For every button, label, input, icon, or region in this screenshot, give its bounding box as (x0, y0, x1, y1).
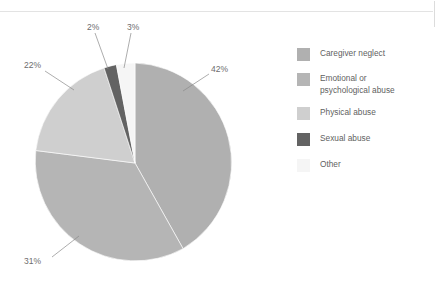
pie-label-31: 31% (24, 256, 41, 266)
legend-label-physical-abuse: Physical abuse (320, 107, 376, 119)
legend-item-other[interactable]: Other (297, 159, 435, 172)
legend-swatch-caregiver-neglect (297, 48, 310, 61)
top-divider (0, 11, 433, 12)
legend-item-emotional-psychological-abuse[interactable]: Emotional or psychological abuse (297, 73, 435, 96)
legend-swatch-sexual-abuse (297, 133, 310, 146)
legend-swatch-emotional-psychological-abuse (297, 73, 310, 86)
leader-line-3 (124, 33, 131, 68)
leader-line-22 (45, 71, 74, 90)
legend-swatch-physical-abuse (297, 107, 310, 120)
pie-label-22: 22% (24, 60, 41, 70)
legend-label-sexual-abuse: Sexual abuse (320, 133, 370, 145)
legend-label-other: Other (320, 159, 341, 171)
pie-label-42: 42% (211, 64, 228, 74)
chart-legend: Caregiver neglect Emotional or psycholog… (297, 48, 435, 182)
leader-line-31 (52, 236, 79, 257)
legend-item-caregiver-neglect[interactable]: Caregiver neglect (297, 48, 435, 61)
legend-label-emotional-psychological-abuse: Emotional or psychological abuse (320, 73, 395, 96)
page-root: 42% 31% 22% 2% 3% Caregiver neglect Emot… (0, 0, 438, 291)
pie-label-3: 3% (127, 22, 140, 32)
legend-item-physical-abuse[interactable]: Physical abuse (297, 107, 435, 120)
legend-item-sexual-abuse[interactable]: Sexual abuse (297, 133, 435, 146)
legend-swatch-other (297, 159, 310, 172)
leader-line-2 (95, 33, 108, 69)
pie-label-2: 2% (87, 22, 100, 32)
legend-label-caregiver-neglect: Caregiver neglect (320, 48, 385, 60)
